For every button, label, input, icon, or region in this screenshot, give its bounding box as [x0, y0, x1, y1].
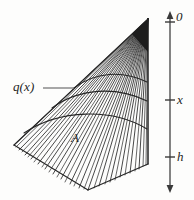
ruling-line [42, 19, 148, 167]
ruling-line [79, 19, 148, 188]
surface-group [14, 19, 148, 190]
axis-label-x: x [177, 93, 183, 106]
load-function-label: q(x) [13, 80, 34, 93]
ruling-line [53, 19, 148, 174]
ruled-surface-diagram [0, 0, 194, 200]
axis-label-zero: 0 [176, 10, 183, 23]
axis-arrow-top [167, 11, 174, 19]
area-label: A [71, 131, 79, 144]
edge-base-left-to-front [14, 145, 88, 190]
edge-base-front-to-right [88, 164, 148, 190]
axis-label-h: h [177, 150, 184, 163]
figure-container: q(x) A 0 x h [0, 0, 194, 200]
ruling-line [22, 19, 148, 152]
vertical-axis-group [165, 11, 175, 193]
axis-arrow-bottom [167, 185, 174, 193]
ruling-line [25, 19, 148, 155]
